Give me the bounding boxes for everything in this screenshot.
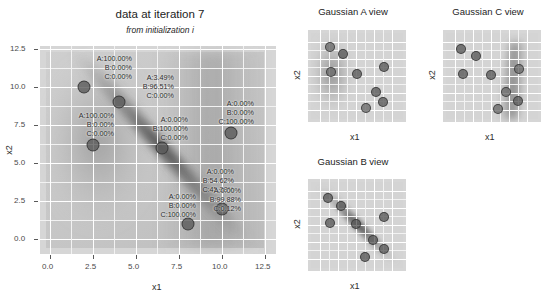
point-annotation: A:0.00% B:0.00% C:100.00% — [116, 192, 196, 220]
x-tick-label: 2.5 — [85, 262, 96, 271]
x-tick-label: 5.0 — [128, 262, 139, 271]
point-annotation: A:3.49% B:96.51% C:0.00% — [110, 73, 174, 101]
gaussian-b-title: Gaussian B view — [288, 156, 418, 167]
data-point[interactable] — [360, 252, 370, 262]
x-tick-label: 0.0 — [42, 262, 53, 271]
x-tick-mark — [265, 255, 266, 259]
y-tick-mark — [34, 201, 38, 202]
annotation-line-a: A:0.00% — [174, 99, 254, 108]
annotation-line-a: A:100.00% — [40, 111, 114, 120]
data-point[interactable] — [78, 81, 91, 94]
data-point[interactable] — [325, 42, 335, 52]
y-tick-label: 10.0 — [10, 82, 26, 91]
annotation-line-c: C:0.00% — [108, 133, 188, 142]
data-point[interactable] — [513, 96, 523, 106]
gaussian-b-plot-area — [308, 179, 406, 271]
gaussian-b-panel: Gaussian B view — [288, 152, 428, 305]
x-tick-label: 10.0 — [212, 262, 228, 271]
page-subtitle: from initialization i — [40, 25, 280, 35]
x-tick-mark — [50, 255, 51, 259]
data-point[interactable] — [352, 69, 362, 79]
data-point[interactable] — [456, 44, 466, 54]
gaussian-c-title: Gaussian C view — [423, 6, 553, 17]
gaussian-a-x-axis-title: x1 — [350, 132, 360, 142]
gaussian-a-y-axis-title: x2 — [292, 63, 302, 87]
y-tick-label: 7.5 — [14, 120, 25, 129]
gaussian-a-panel: Gaussian A view — [288, 0, 418, 152]
annotation-line-c: C:100.00% — [116, 210, 196, 219]
gaussian-a-title: Gaussian A view — [288, 6, 418, 17]
gaussian-b-x-axis-title: x1 — [350, 281, 360, 291]
data-point[interactable] — [379, 244, 389, 254]
annotation-line-c: C:0.00% — [110, 91, 174, 100]
annotation-line-c: C:0.00% — [40, 129, 114, 138]
data-point[interactable] — [336, 201, 346, 211]
y-axis-title: x2 — [4, 138, 14, 162]
data-point[interactable] — [338, 49, 348, 59]
data-point[interactable] — [514, 64, 524, 74]
y-tick-label: 12.5 — [10, 44, 26, 53]
data-point[interactable] — [493, 104, 503, 114]
gaussian-c-plot-area — [443, 30, 541, 122]
data-point[interactable] — [323, 193, 333, 203]
x-tick-mark — [93, 255, 94, 259]
x-tick-mark — [136, 255, 137, 259]
main-plot-panel: data at iteration 7 from initialization … — [0, 0, 285, 305]
annotation-line-a: A:100.00% — [52, 54, 132, 63]
gaussian-c-panel: Gaussian C view — [423, 0, 553, 152]
annotation-line-c: C:100.00% — [174, 117, 254, 126]
data-point[interactable] — [379, 212, 389, 222]
data-point[interactable] — [351, 219, 361, 229]
data-point[interactable] — [458, 69, 468, 79]
gaussian-c-x-axis-title: x1 — [485, 132, 495, 142]
data-point[interactable] — [156, 142, 169, 155]
y-tick-mark — [34, 87, 38, 88]
y-tick-label: 2.5 — [14, 196, 25, 205]
x-tick-mark — [179, 255, 180, 259]
gaussian-a-plot-area — [308, 30, 406, 122]
data-point[interactable] — [501, 87, 511, 97]
data-point[interactable] — [379, 62, 389, 72]
data-point[interactable] — [325, 218, 335, 228]
data-point[interactable] — [361, 103, 371, 113]
y-tick-label: 5.0 — [14, 158, 25, 167]
y-tick-mark — [34, 125, 38, 126]
x-axis-title: x1 — [152, 282, 162, 292]
data-point[interactable] — [225, 127, 238, 140]
gaussian-c-y-axis-title: x2 — [427, 63, 437, 87]
data-point[interactable] — [371, 87, 381, 97]
data-point[interactable] — [326, 67, 336, 77]
x-tick-label: 12.5 — [255, 262, 271, 271]
x-tick-label: 7.5 — [171, 262, 182, 271]
point-annotation: A:0.00% B:0.00% C:100.00% — [174, 99, 254, 127]
point-annotation: A:100.00% B:0.00% C:0.00% — [40, 111, 114, 139]
annotation-line-a: A:3.49% — [110, 73, 174, 82]
x-tick-mark — [222, 255, 223, 259]
data-point[interactable] — [87, 139, 100, 152]
y-tick-mark — [34, 49, 38, 50]
page-title: data at iteration 7 — [40, 8, 280, 20]
y-tick-mark — [34, 239, 38, 240]
gaussian-b-y-axis-title: x2 — [292, 212, 302, 236]
data-point[interactable] — [486, 70, 496, 80]
data-point[interactable] — [378, 97, 388, 107]
data-point[interactable] — [471, 51, 481, 61]
y-tick-mark — [34, 163, 38, 164]
data-point[interactable] — [368, 235, 378, 245]
y-tick-label: 0.0 — [14, 234, 25, 243]
annotation-line-a: A:0.00% — [154, 167, 234, 176]
main-plot-area: A:100.00% B:0.00% C:0.00% A:3.49% B:96.5… — [40, 46, 276, 254]
annotation-line-a: A:0.00% — [116, 192, 196, 201]
